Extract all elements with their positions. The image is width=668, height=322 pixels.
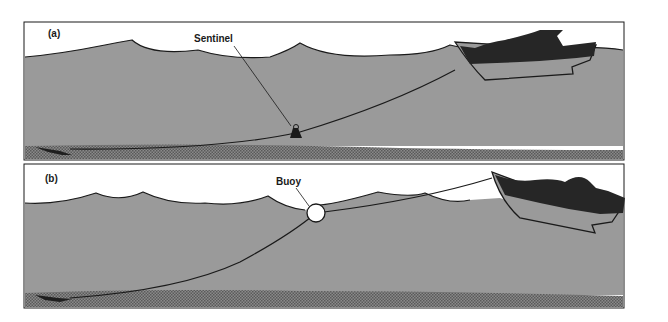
panel-b-label: (b) (45, 173, 58, 184)
sentinel-label: Sentinel (194, 33, 233, 44)
panel-a-label: (a) (48, 28, 60, 39)
buoy-label: Buoy (276, 176, 301, 187)
buoy-icon (307, 204, 325, 222)
anchoring-diagram: (a) Sentinel (b) Buoy (0, 0, 668, 322)
panel-b: (b) Buoy (24, 164, 625, 308)
panel-a: (a) Sentinel (24, 22, 624, 160)
